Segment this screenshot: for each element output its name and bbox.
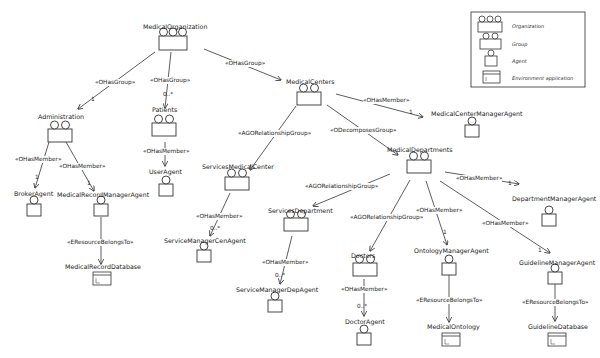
node-label-guidelinedatabase: GuidelineDatabase: [528, 323, 588, 331]
node-label-useragent: UserAgent: [149, 168, 182, 176]
edge-label-ohasmember-doctoragent: «OHasMember»: [341, 286, 387, 293]
group-icon-patients: [152, 115, 176, 136]
edge-label-ohasmember-mcmanager: «OHasMember»: [363, 97, 409, 104]
agent-icon-ontologymanager: [442, 255, 456, 275]
node-label-mrdatabase: MedicalRecordDatabase: [65, 263, 141, 271]
edge-mc-servicesmc: [250, 106, 296, 170]
agent-icon-deptmanager: [542, 206, 556, 226]
node-label-guidelinemanageragent: GuidelineManagerAgent: [519, 259, 595, 267]
edge-label-eresource-mrdb: «EResourceBelongsTo»: [67, 239, 134, 246]
agent-icon-guidelinemanager: [548, 264, 562, 284]
edge-md-guideline: [440, 181, 550, 253]
node-label-medicalcenters: MedicalCenters: [286, 78, 335, 86]
group-icon-servicesmedicalcenter: [225, 169, 249, 190]
node-label-servicemanagercenagent: ServiceManagerCenAgent: [164, 237, 246, 245]
edge-label-ohasmember-mrmanager: «OHasMember»: [59, 163, 105, 170]
mult-guideline: 1: [538, 247, 542, 254]
edge-label-eresource-gdb: «EResourceBelongsTo»: [522, 299, 589, 306]
edge-label-ohasgroup-admin: «OHasGroup»: [95, 79, 135, 86]
edge-label-ohasmember-guideline: «OHasMember»: [482, 220, 528, 227]
edge-label-ohasmember-deptmanager: «OHasMember»: [456, 175, 502, 182]
edge-label-odecomposes: «ODecomposesGroup»: [330, 127, 397, 134]
group-icon-medicaldepartments: [407, 152, 431, 173]
edge-label-eresource-medont: «EResourceBelongsTo»: [416, 297, 483, 304]
node-label-brokeragent: BrokerAgent: [14, 190, 53, 198]
agent-icon-mcmanager: [465, 117, 479, 137]
agent-icon-broker: [27, 196, 41, 216]
edge-label-ohasmember-broker: «OHasMember»: [15, 156, 61, 163]
legend-environment-icon: [483, 71, 500, 83]
environment-icon-gdb: [548, 333, 566, 346]
node-label-servicesmedicalcenter: ServicesMedicalCenter: [202, 163, 274, 171]
mult-doctoragent: 0..*: [357, 303, 367, 310]
group-icon-medicalcenters: [297, 84, 321, 105]
edge-md-servicesdept: [313, 174, 390, 206]
edge-label-ohasmember-useragent: «OHasMember»: [143, 148, 189, 155]
node-label-administration: Administration: [38, 113, 84, 121]
mult-mcmanager: 1: [409, 109, 413, 116]
mult-broker: 1: [35, 174, 39, 181]
edge-label-ohasmember-servicemgrdep: «OHasMember»: [262, 259, 308, 266]
edge-label-agorel-doctors: «AGORelationshipGroup»: [350, 214, 423, 221]
legend-organization-icon: [478, 16, 502, 32]
agent-icon-mrmanager: [94, 196, 108, 216]
group-icon-administration: [48, 121, 72, 142]
edge-label-agorel-servicesdept: «AGORelationshipGroup»: [305, 183, 378, 190]
legend-label-agent: Agent: [512, 58, 527, 64]
mult-servicemgrdep: 0..*: [275, 272, 285, 279]
agent-icon-doctoragent: [357, 325, 371, 345]
node-label-deptmanageragent: DepartmentManagerAgent: [512, 195, 596, 203]
node-label-doctors: Doctors: [351, 252, 375, 260]
node-label-servicemanagerdepagent: ServiceManagerDepAgent: [236, 286, 318, 294]
diagram-canvas: [0, 0, 600, 358]
organization-icon: [159, 28, 187, 50]
edge-label-ohasgroup-patients: «OHasGroup»: [150, 77, 190, 84]
edge-admin-broker: [35, 142, 49, 188]
legend-label-group: Group: [512, 41, 527, 47]
legend-label-environment: Environment application: [512, 75, 573, 81]
node-label-ontologymanageragent: OntologyManagerAgent: [414, 247, 489, 255]
node-label-doctoragent: DoctorAgent: [345, 318, 385, 326]
mult-admin: 1: [91, 96, 95, 103]
agent-icon-servicemgrdep: [268, 292, 282, 312]
node-label-mrmanageragent: MedicalRecordManagerAgent: [57, 191, 149, 199]
mult-ontology: 1: [443, 229, 447, 236]
mult-deptmanager: 1: [508, 180, 512, 187]
legend-label-organization: Organization: [512, 23, 544, 29]
node-label-servicesdepartment: ServicesDepartment: [268, 207, 333, 215]
agent-icon-useragent: [159, 176, 173, 196]
edge-label-agorel-servicesmc: «AGORelationshipGroup»: [238, 130, 311, 137]
agent-icon-servicemgrcen: [197, 242, 211, 262]
environment-icon-medont: [442, 333, 460, 346]
mult-mrmanager: 1: [87, 180, 91, 187]
node-label-medicalorganization: MedicalOrganization: [143, 23, 207, 31]
edge-label-ohasgroup-medcenters: «OHasGroup»: [225, 60, 265, 67]
node-label-medicaldepartments: MedicalDepartments: [387, 146, 453, 154]
environment-icon-mrdb: [93, 272, 111, 285]
edge-label-ohasmember-ontology: «OHasMember»: [416, 207, 462, 214]
mult-servicemgrcen: 0..*: [210, 225, 220, 232]
node-label-mcmanageragent: MedicalCenterManagerAgent: [431, 110, 523, 118]
mult-patients: 0..*: [163, 91, 173, 98]
node-label-medicalontology: MedicalOntology: [427, 323, 480, 331]
edge-label-ohasmember-servicemgrcen: «OHasMember»: [196, 213, 242, 220]
node-label-patients: Patients: [152, 106, 177, 114]
